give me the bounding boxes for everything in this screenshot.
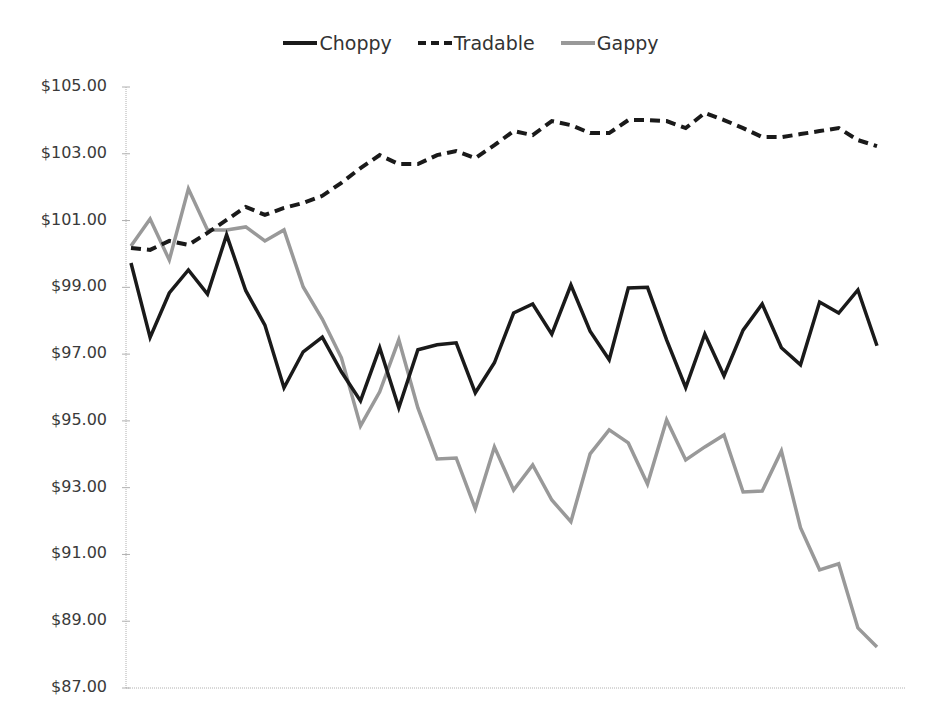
y-tick-label: $87.00 — [12, 677, 107, 696]
tradable-dashed-swatch-icon — [418, 41, 452, 45]
plot-lines — [131, 113, 877, 647]
legend-label: Choppy — [319, 32, 391, 54]
legend-label: Gappy — [597, 32, 659, 54]
legend-item-tradable: Tradable — [418, 32, 535, 54]
y-tick-label: $89.00 — [12, 610, 107, 629]
line-chart — [0, 0, 942, 727]
legend: Choppy Tradable Gappy — [0, 32, 942, 54]
tradable-series-line — [131, 113, 877, 250]
y-tick-label: $103.00 — [12, 143, 107, 162]
legend-label: Tradable — [454, 32, 535, 54]
gappy-line-swatch-icon — [561, 41, 595, 45]
y-tick-label: $91.00 — [12, 543, 107, 562]
legend-item-choppy: Choppy — [283, 32, 391, 54]
axes — [122, 87, 905, 688]
y-tick-label: $97.00 — [12, 343, 107, 362]
gappy-series-line — [131, 189, 877, 647]
y-tick-label: $95.00 — [12, 410, 107, 429]
y-tick-label: $101.00 — [12, 210, 107, 229]
legend-item-gappy: Gappy — [561, 32, 659, 54]
y-tick-label: $105.00 — [12, 76, 107, 95]
y-tick-label: $93.00 — [12, 477, 107, 496]
choppy-series-line — [131, 235, 877, 408]
choppy-line-swatch-icon — [283, 41, 317, 45]
y-tick-label: $99.00 — [12, 276, 107, 295]
